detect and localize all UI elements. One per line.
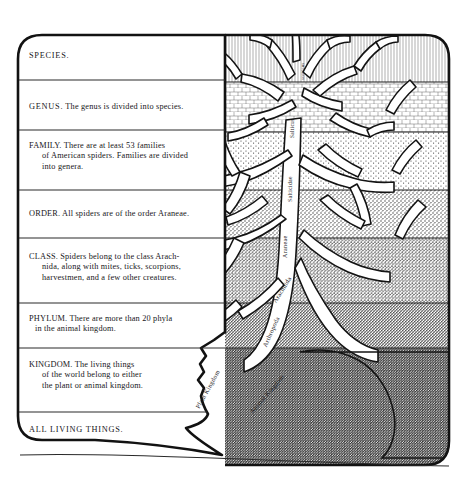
row-phylum: PHYLUM. There are more than 20 phyla in … — [29, 314, 172, 335]
row-all-living-things-line-1: ALL LIVING THINGS. — [29, 425, 123, 434]
family-label: Salticidae — [287, 176, 293, 202]
row-genus: GENUS. The genus is divided into species… — [29, 102, 183, 112]
row-family-line-1: FAMILY. There are at least 53 families — [29, 141, 188, 151]
row-kingdom-line-3: the plant or animal kingdom. — [29, 381, 143, 391]
rank-label-genus: GENUS. — [29, 102, 63, 111]
row-class-line-3: harvestmen, and a few other creatures. — [29, 273, 181, 283]
rank-label-species: SPECIES. — [29, 51, 69, 60]
row-kingdom-line-2: of the world belong to either — [29, 370, 143, 380]
left-panel-outline — [18, 35, 225, 455]
texture-bands — [201, 30, 455, 468]
row-family-line-3: into genera. — [29, 162, 188, 172]
species-label: scenicus — [300, 63, 305, 80]
illustration-artwork — [0, 0, 461, 485]
row-family: FAMILY. There are at least 53 families o… — [29, 141, 188, 172]
row-kingdom-line-1: KINGDOM. The living things — [29, 360, 143, 370]
row-order-line-1: ORDER. All spiders are of the order Aran… — [29, 209, 189, 219]
row-all-living-things: ALL LIVING THINGS. — [29, 425, 123, 435]
row-class-line-2: nida, along with mites, ticks, scorpions… — [29, 262, 181, 272]
row-class-line-1: CLASS. Spiders belong to the class Arach… — [29, 252, 181, 262]
rank-body-genus: The genus is divided into species. — [65, 102, 183, 111]
row-species: SPECIES. — [29, 51, 69, 61]
genus-label: Salticus — [289, 119, 295, 138]
row-family-line-2: of American spiders. Families are divide… — [29, 151, 188, 161]
order-label: Araneae — [282, 236, 288, 258]
figure-canvas: SPECIES. GENUS. The genus is divided int… — [0, 0, 461, 485]
row-phylum-line-2: in the animal kingdom. — [29, 324, 172, 334]
row-kingdom: KINGDOM. The living things of the world … — [29, 360, 143, 391]
row-phylum-line-1: PHYLUM. There are more than 20 phyla — [29, 314, 172, 324]
row-order: ORDER. All spiders are of the order Aran… — [29, 209, 189, 219]
row-class: CLASS. Spiders belong to the class Arach… — [29, 252, 181, 283]
